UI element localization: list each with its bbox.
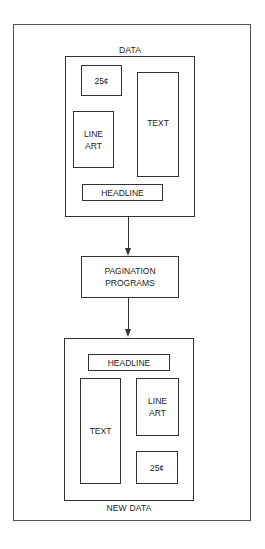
new-data-label: NEW DATA bbox=[64, 503, 194, 513]
price-box: 25¢ bbox=[81, 65, 122, 96]
connector-line bbox=[128, 217, 129, 248]
line-art-box: LINE ART bbox=[73, 111, 114, 168]
pagination-programs-box: PAGINATION PROGRAMS bbox=[81, 256, 179, 298]
line-art-line1: LINE bbox=[84, 128, 103, 140]
new-headline-box: HEADLINE bbox=[88, 354, 170, 371]
headline-box: HEADLINE bbox=[82, 184, 163, 201]
process-line1: PAGINATION bbox=[104, 265, 155, 277]
new-line-art-box: LINE ART bbox=[136, 378, 179, 436]
new-line-art-line2: ART bbox=[149, 407, 166, 419]
new-text-box: TEXT bbox=[80, 378, 121, 484]
arrow-down-icon bbox=[125, 248, 131, 256]
new-price-box: 25¢ bbox=[136, 451, 178, 484]
text-box: TEXT bbox=[137, 72, 179, 177]
line-art-line2: ART bbox=[85, 140, 102, 152]
connector-line bbox=[128, 298, 129, 329]
arrow-down-icon bbox=[125, 329, 131, 337]
data-label: DATA bbox=[65, 45, 195, 55]
new-line-art-line1: LINE bbox=[148, 395, 167, 407]
process-line2: PROGRAMS bbox=[105, 277, 155, 289]
